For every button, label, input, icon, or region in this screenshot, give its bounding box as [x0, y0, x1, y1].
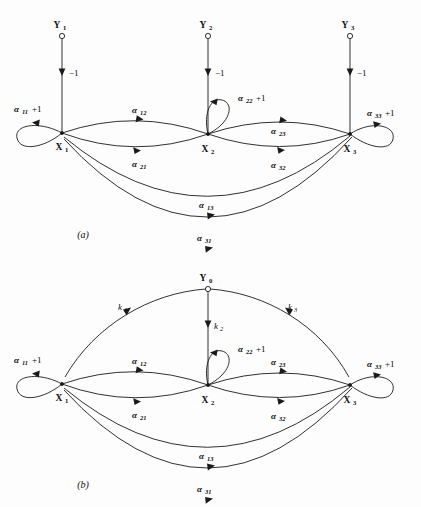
label-x2: X	[202, 144, 209, 154]
edge-x1-x2-lower	[62, 384, 208, 405]
label-alpha-11-tail: +1	[32, 355, 42, 365]
label-alpha-12-sub: 12	[140, 109, 147, 116]
label-alpha-11: α	[14, 104, 20, 114]
label-alpha-23: α	[271, 126, 277, 136]
label-x1: X	[56, 142, 63, 152]
label-y2: Y	[200, 20, 207, 30]
label-alpha-12: α	[132, 356, 138, 366]
label-alpha-33: α	[367, 359, 373, 369]
label-x3: X	[344, 395, 351, 405]
input-edge-y0-x2	[205, 292, 212, 384]
panel-b-graph: Y 0 k 1 k 2 k 3 X 1 X 2 X 3 α 11 +1 α 22…	[0, 260, 421, 507]
node-x1	[60, 382, 63, 385]
node-y0	[205, 286, 210, 291]
label-alpha-22: α	[238, 344, 244, 354]
label-alpha-33: α	[367, 108, 373, 118]
label-x2-sub: 2	[211, 399, 215, 406]
label-x1-sub: 1	[65, 397, 68, 404]
label-x1-sub: 1	[65, 146, 68, 153]
label-k1: k	[118, 302, 123, 312]
label-y1: Y	[54, 20, 61, 30]
label-x3-sub: 3	[353, 148, 357, 155]
label-alpha-11: α	[14, 355, 20, 365]
caption-b: (b)	[77, 479, 89, 491]
label-alpha-11-sub: 11	[22, 359, 28, 366]
label-y3-sub: 3	[351, 24, 355, 31]
input-edge-y2-x2	[205, 38, 212, 134]
label-y1-sub: 1	[63, 24, 66, 31]
label-alpha-21-sub: 21	[139, 414, 146, 421]
label-alpha-21: α	[132, 410, 138, 420]
label-alpha-13: α	[199, 451, 205, 461]
label-alpha-22-sub: 22	[245, 97, 253, 104]
edge-x1-x3-outer	[64, 388, 352, 504]
label-alpha-33-tail: +1	[385, 108, 395, 118]
edge-x2-x3-upper	[208, 368, 350, 386]
label-x2-sub: 2	[211, 148, 215, 155]
label-alpha-33-tail: +1	[385, 359, 395, 369]
node-y2	[205, 33, 210, 38]
label-alpha-33-sub: 33	[374, 112, 382, 119]
label-alpha-32: α	[271, 411, 277, 421]
label-alpha-23: α	[271, 357, 277, 367]
self-loop-x3	[350, 372, 393, 398]
label-k1-sub: 1	[124, 306, 127, 313]
label-alpha-13-sub: 13	[207, 204, 214, 211]
label-y2-sub: 2	[209, 24, 213, 31]
node-x2	[206, 383, 209, 386]
label-alpha-12-sub: 12	[140, 360, 147, 367]
input-edge-y1-x1	[59, 38, 66, 133]
label-alpha-13-sub: 13	[207, 455, 214, 462]
edge-x1-x2-upper	[62, 115, 208, 134]
label-alpha-21-sub: 21	[139, 163, 146, 170]
edge-x1-x2-lower	[62, 133, 208, 154]
label-alpha-11-tail: +1	[32, 104, 42, 114]
signal-flow-graph-figure: Y 1 Y 2 Y 3 −1 −1 −1 X 1 X 2 X 3 α 11 +1…	[0, 0, 421, 507]
label-alpha-22: α	[238, 93, 244, 103]
label-y3: Y	[342, 20, 349, 30]
edge-x1-x2-upper	[62, 366, 208, 385]
label-alpha-23-sub: 23	[278, 130, 286, 137]
label-x2: X	[202, 395, 209, 405]
label-k2-sub: 2	[220, 325, 224, 332]
self-loop-x3	[350, 121, 393, 147]
label-alpha-22-tail: +1	[256, 93, 266, 103]
panel-a-graph: Y 1 Y 2 Y 3 −1 −1 −1 X 1 X 2 X 3 α 11 +1…	[0, 0, 421, 260]
label-y0: Y	[200, 273, 207, 283]
label-input-gain-2: −1	[215, 68, 225, 78]
node-x1	[60, 131, 63, 134]
label-x3-sub: 3	[353, 399, 357, 406]
node-x3	[348, 132, 351, 135]
label-alpha-31: α	[197, 484, 203, 494]
label-k3-sub: 3	[293, 306, 297, 313]
label-alpha-33-sub: 33	[374, 363, 382, 370]
label-alpha-23-sub: 23	[278, 361, 286, 368]
node-y1	[59, 33, 64, 38]
label-alpha-22-sub: 22	[245, 348, 253, 355]
label-alpha-31-sub: 31	[204, 488, 211, 495]
label-alpha-31: α	[197, 233, 203, 243]
label-alpha-32-sub: 32	[278, 415, 286, 422]
label-alpha-21: α	[132, 159, 138, 169]
node-x2	[206, 132, 209, 135]
label-x1: X	[56, 393, 63, 403]
label-alpha-12: α	[132, 105, 138, 115]
label-alpha-32-sub: 32	[278, 164, 286, 171]
node-y3	[347, 33, 352, 38]
label-x3: X	[344, 144, 351, 154]
label-input-gain-1: −1	[69, 68, 79, 78]
label-input-gain-3: −1	[357, 68, 367, 78]
label-y0-sub: 0	[209, 277, 213, 284]
label-alpha-11-sub: 11	[22, 108, 28, 115]
edge-x2-x3-lower	[208, 385, 350, 405]
node-x3	[348, 383, 351, 386]
label-alpha-13: α	[199, 200, 205, 210]
input-edge-y3-x3	[347, 38, 354, 134]
caption-a: (a)	[77, 229, 89, 241]
label-alpha-32: α	[271, 160, 277, 170]
label-alpha-22-tail: +1	[256, 344, 266, 354]
label-alpha-31-sub: 31	[204, 237, 211, 244]
label-k2: k	[214, 321, 219, 331]
edge-x1-x3-outer	[64, 137, 352, 253]
